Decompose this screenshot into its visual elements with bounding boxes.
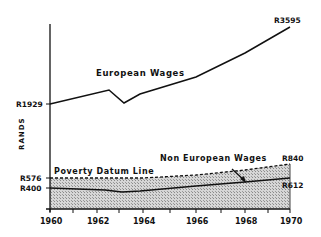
x-label-1968: 1968 — [235, 217, 258, 226]
poverty-datum-label: Poverty Datum Line — [54, 167, 154, 176]
r840-label: R840 — [282, 154, 303, 163]
x-label-1964: 1964 — [133, 217, 156, 226]
r576-label: R576 — [20, 174, 41, 183]
european-wages-label: European Wages — [96, 68, 185, 78]
y-axis-title: RANDS — [18, 117, 26, 150]
non-european-wages-label: Non European Wages — [160, 154, 267, 163]
r612-label: R612 — [282, 181, 303, 190]
wage-chart: European Wages Poverty Datum Line Non Eu… — [0, 0, 321, 237]
r3595-label: R3595 — [274, 16, 301, 25]
r1929-label: R1929 — [16, 100, 43, 109]
x-label-1960: 1960 — [40, 217, 63, 226]
x-label-1962: 1962 — [87, 217, 109, 226]
x-label-1966: 1966 — [186, 217, 209, 226]
european-wages-line — [50, 27, 290, 104]
x-label-1970: 1970 — [280, 217, 303, 226]
r400-label: R400 — [20, 184, 41, 193]
